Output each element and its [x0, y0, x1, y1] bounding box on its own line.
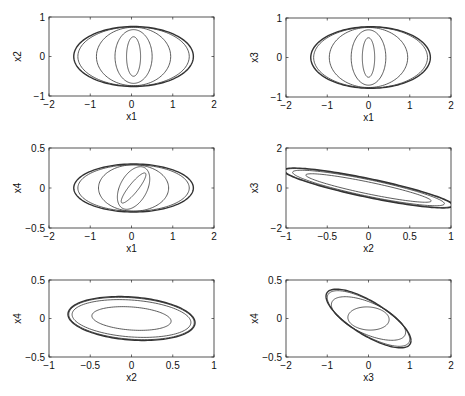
x-tick-label: 1: [407, 360, 413, 371]
x-tick-label: 2: [448, 360, 454, 371]
trajectory-orbit-1: [121, 173, 146, 203]
x-axis-label: x2: [126, 372, 137, 383]
trajectory-orbit-1: [127, 37, 141, 77]
x-tick-label: 0: [129, 360, 135, 371]
trajectory-orbit-3: [329, 27, 407, 87]
trajectory-orbit-4: [326, 289, 411, 348]
x-axis-label: x3: [363, 372, 374, 383]
y-tick-label: 0: [39, 51, 45, 62]
y-axis-label: x4: [12, 313, 23, 324]
trajectory-orbit-3: [99, 165, 169, 211]
x-axis-label: x1: [363, 112, 374, 123]
x-tick-label: 1: [170, 99, 176, 110]
x-tick-label: 2: [448, 100, 454, 111]
trajectories: [284, 168, 454, 208]
subplot-x3-x4: −2−1012−0.500.5x3x4: [249, 275, 454, 384]
trajectory-orbit-1: [348, 307, 389, 330]
x-tick-label: 0: [366, 360, 372, 371]
x-tick-label: 2: [211, 231, 217, 242]
x-axis-label: x1: [126, 111, 137, 122]
x-tick-label: −2: [280, 360, 292, 371]
trajectory-orbit-4: [314, 27, 428, 88]
y-tick-label: 0: [276, 52, 282, 63]
x-tick-label: 2: [211, 99, 217, 110]
trajectories: [74, 164, 194, 212]
x-axis-label: x1: [126, 243, 137, 254]
trajectory-orbit-1: [362, 38, 374, 78]
y-tick-label: 0: [39, 313, 45, 324]
subplot-x1-x4: −2−1012−0.500.5x1x4: [12, 143, 217, 255]
x-tick-label: 0: [129, 99, 135, 110]
x-tick-label: −1: [322, 100, 334, 111]
y-axis-label: x2: [12, 51, 23, 62]
y-tick-label: 2: [276, 143, 282, 154]
y-tick-label: 0.5: [268, 275, 282, 286]
phase-portrait-figure: −2−1012−101x1x2 −2−1012−101x1x3 −2−1012−…: [0, 0, 465, 396]
trajectory-orbit-5: [74, 164, 194, 212]
y-tick-label: −0.5: [262, 352, 282, 363]
y-tick-label: 1: [276, 13, 282, 24]
subplot-x1-x2: −2−1012−101x1x2: [12, 12, 217, 123]
y-tick-label: −0.5: [25, 352, 45, 363]
y-tick-label: 0: [276, 313, 282, 324]
y-tick-label: −2: [271, 223, 283, 234]
y-tick-label: −0.5: [25, 223, 45, 234]
trajectories: [68, 297, 195, 341]
x-tick-label: −0.5: [317, 231, 337, 242]
x-tick-label: −1: [85, 99, 97, 110]
axes-box: [286, 148, 451, 228]
x-tick-label: −2: [280, 100, 292, 111]
y-tick-label: 1: [39, 12, 45, 23]
x-tick-label: −2: [43, 99, 55, 110]
trajectory-orbit-3: [96, 27, 170, 85]
trajectory-orbit-5: [311, 27, 431, 89]
trajectories: [326, 289, 411, 348]
trajectory-orbit-4: [78, 165, 189, 211]
x-tick-label: −0.5: [80, 360, 100, 371]
x-axis-label: x2: [363, 243, 374, 254]
x-tick-label: 0: [129, 231, 135, 242]
subplot-x2-x4: −1−0.500.51−0.500.5x2x4: [12, 275, 217, 384]
x-tick-label: 0: [366, 231, 372, 242]
axes-box: [286, 280, 451, 357]
y-tick-label: 0.5: [31, 143, 45, 154]
trajectory-orbit-2: [331, 297, 405, 341]
trajectories: [74, 26, 194, 86]
x-tick-label: 1: [407, 100, 413, 111]
x-tick-label: 1: [211, 360, 217, 371]
x-tick-label: −1: [322, 360, 334, 371]
trajectory-orbit-3: [285, 169, 452, 208]
subplot-x2-x3: −1−0.500.51−202x2x3: [249, 143, 454, 255]
subplot-x1-x3: −2−1012−101x1x3: [249, 13, 454, 124]
x-tick-label: −1: [280, 231, 292, 242]
trajectory-orbit-3: [69, 297, 194, 339]
x-tick-label: −2: [43, 231, 55, 242]
y-tick-label: 0: [276, 183, 282, 194]
y-tick-label: 0: [39, 183, 45, 194]
y-axis-label: x4: [249, 313, 260, 324]
x-tick-label: 0.5: [403, 231, 417, 242]
y-tick-label: 0.5: [31, 275, 45, 286]
x-tick-label: 1: [448, 231, 454, 242]
y-tick-label: −1: [271, 92, 283, 103]
x-tick-label: 0: [366, 100, 372, 111]
x-tick-label: −1: [43, 360, 55, 371]
y-axis-label: x3: [249, 52, 260, 63]
x-tick-label: 1: [170, 231, 176, 242]
trajectory-orbit-2: [115, 30, 152, 84]
y-axis-label: x4: [12, 182, 23, 193]
trajectory-orbit-1: [92, 307, 171, 331]
y-tick-label: −1: [34, 91, 46, 102]
trajectory-orbit-5: [74, 26, 194, 86]
trajectory-orbit-4: [78, 27, 189, 86]
y-axis-label: x3: [249, 182, 260, 193]
x-tick-label: 0.5: [166, 360, 180, 371]
trajectories: [311, 27, 431, 89]
trajectory-orbit-2: [293, 170, 445, 206]
x-tick-label: −1: [85, 231, 97, 242]
